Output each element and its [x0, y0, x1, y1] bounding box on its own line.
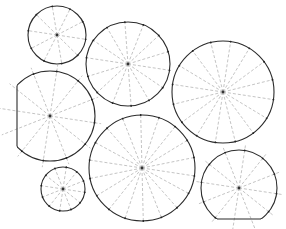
circle-g [196, 145, 282, 229]
center-point [62, 188, 65, 191]
center-point [141, 167, 144, 170]
circle-b [86, 21, 171, 107]
center-point [127, 63, 130, 66]
circle-a [27, 5, 86, 64]
center-point [56, 34, 59, 37]
center-point [222, 91, 225, 94]
circle-e [89, 114, 196, 222]
center-point [238, 187, 241, 190]
circle-d [0, 65, 101, 167]
circle-f [40, 166, 85, 211]
circles-diagram [0, 0, 286, 229]
circle-c [172, 41, 275, 144]
center-point [49, 115, 52, 118]
diagram-canvas: Circle packing with radial spokes [0, 0, 286, 229]
